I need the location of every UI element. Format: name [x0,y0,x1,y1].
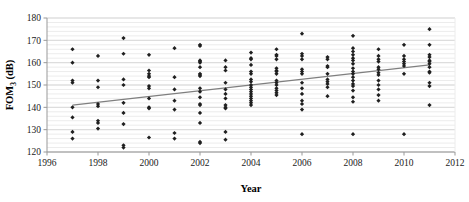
x-axis-tick-labels: 199619982000200220042006200820102012 [38,158,465,168]
y-tick-label: 120 [27,147,42,157]
x-tick-label: 2004 [242,158,261,168]
y-tick-label: 150 [27,80,42,90]
x-tick-label: 2012 [446,158,465,168]
x-tick-label: 2008 [344,158,363,168]
scatter-chart: 120130140150160170180 199619982000200220… [0,0,469,202]
x-tick-label: 2002 [191,158,210,168]
y-tick-label: 170 [27,36,42,46]
chart-background [0,0,469,202]
x-tick-label: 2006 [293,158,312,168]
x-tick-label: 1996 [38,158,57,168]
y-tick-label: 130 [27,125,42,135]
x-tick-label: 2000 [140,158,159,168]
y-tick-label: 140 [27,103,42,113]
y-axis-title-unit: (dB) [4,59,16,82]
chart-canvas: 120130140150160170180 199619982000200220… [0,0,469,202]
y-axis-title-base: FOM [4,86,15,111]
y-tick-label: 160 [27,58,42,68]
y-tick-label: 180 [27,13,42,23]
x-tick-label: 2010 [395,158,414,168]
x-tick-label: 1998 [89,158,108,168]
x-axis-title: Year [241,183,262,194]
